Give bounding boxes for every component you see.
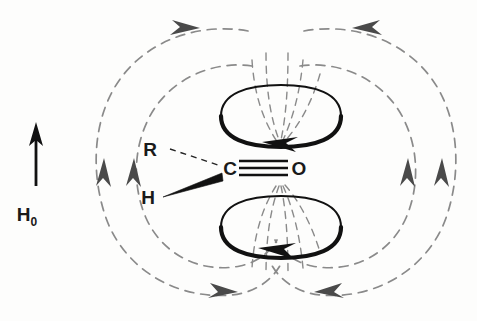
external-field-subscript: 0 (31, 215, 38, 229)
r-group-label: R (143, 139, 157, 160)
carbon-label: C (223, 158, 237, 179)
ring-current-figure: R H C O H0 (0, 0, 477, 321)
diagram-canvas: R H C O H0 (0, 0, 477, 321)
external-field-letter: H (17, 204, 31, 225)
hydrogen-label: H (141, 187, 155, 208)
oxygen-label: O (292, 158, 307, 179)
